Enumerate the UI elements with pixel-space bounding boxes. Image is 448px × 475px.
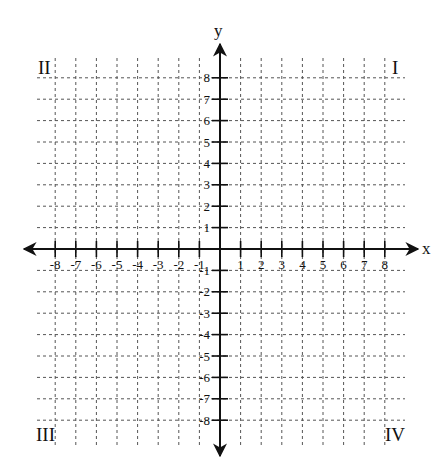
quadrant-label-i: I	[392, 57, 398, 78]
x-tick-label: 1	[237, 257, 244, 272]
y-tick-label: 1	[204, 220, 211, 235]
x-tick-label: -3	[153, 257, 164, 272]
y-tick-label: 6	[204, 113, 211, 128]
y-tick-label: -8	[199, 413, 210, 428]
x-tick-label: -5	[112, 257, 123, 272]
x-tick-label: 3	[279, 257, 286, 272]
y-axis-label: y	[214, 21, 223, 40]
x-tick-label: 6	[340, 257, 347, 272]
y-tick-label: -6	[199, 370, 210, 385]
y-tick-label: -2	[199, 284, 210, 299]
y-tick-label: -7	[199, 391, 210, 406]
axes	[24, 44, 418, 456]
x-tick-label: 4	[299, 257, 306, 272]
x-tick-label: 8	[382, 257, 389, 272]
y-tick-label: 8	[204, 70, 211, 85]
quadrant-label-iii: III	[36, 424, 55, 445]
y-tick-label: 3	[204, 177, 211, 192]
y-tick-label: -3	[199, 306, 210, 321]
coordinate-plane: -8-7-6-5-4-3-2-112345678-8-7-6-5-4-3-2-1…	[0, 0, 448, 475]
x-tick-label: -2	[173, 257, 184, 272]
y-tick-label: -1	[199, 263, 210, 278]
y-tick-label: 7	[204, 92, 211, 107]
y-tick-label: 4	[204, 156, 211, 171]
y-tick-label: 5	[204, 135, 211, 150]
x-tick-label: -4	[132, 257, 143, 272]
y-tick-label: 2	[204, 199, 211, 214]
x-tick-label: 2	[258, 257, 265, 272]
y-tick-label: -4	[199, 327, 210, 342]
x-tick-label: -6	[91, 257, 102, 272]
x-tick-label: -8	[50, 257, 61, 272]
x-axis-label: x	[422, 239, 431, 258]
x-tick-label: -7	[70, 257, 81, 272]
quadrant-label-iv: IV	[385, 424, 405, 445]
quadrant-label-ii: II	[38, 57, 51, 78]
y-tick-label: -5	[199, 349, 210, 364]
x-tick-label: 5	[320, 257, 327, 272]
x-tick-label: 7	[361, 257, 368, 272]
